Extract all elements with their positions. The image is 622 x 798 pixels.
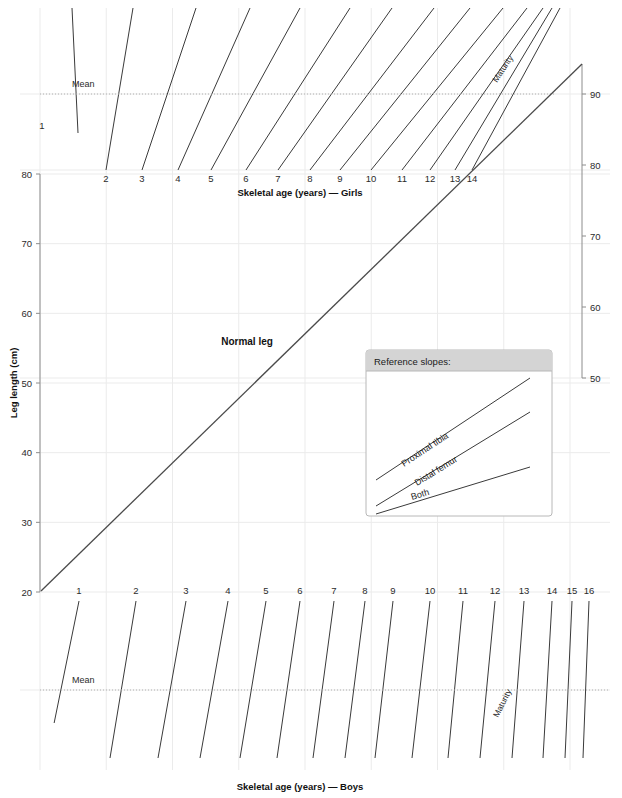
boys-age-label: 5 [263,585,268,596]
boys-age-label: 11 [458,585,468,596]
girls-age-label: 9 [337,173,342,184]
girls-mean-label: Mean [72,79,95,89]
boys-age-label: 13 [519,585,530,596]
right-axis-tick-label: 70 [590,231,601,242]
girls-age-label: 3 [139,173,144,184]
left-axis-tick-label: 30 [21,517,32,528]
girls-age-label: 5 [208,173,213,184]
girls-age-label: 4 [175,173,180,184]
right-axis-tick-label: 80 [590,160,601,171]
right-axis-tick-label: 60 [590,302,601,313]
left-axis-tick-label: 70 [21,238,32,249]
left-axis-tick-label: 80 [21,169,32,180]
girls-age-label: 1 [39,120,44,131]
girls-age-label: 7 [275,173,280,184]
girls-age-label: 8 [307,173,312,184]
boys-axis-title: Skeletal age (years) — Boys [237,781,364,792]
boys-age-label: 2 [133,585,138,596]
legend-title: Reference slopes: [374,356,451,367]
y-axis-title: Leg length (cm) [8,348,19,419]
boys-age-label: 15 [567,585,578,596]
chart-canvas: 1234567891011121314 Mean Maturity Skelet… [0,0,622,798]
boys-age-label: 12 [490,585,501,596]
boys-age-label: 9 [390,585,395,596]
left-axis-tick-label: 40 [21,447,32,458]
boys-mean-label: Mean [72,675,95,685]
legend-box [366,350,552,516]
left-axis-tick-label: 60 [21,308,32,319]
girls-age-label: 12 [425,173,436,184]
boys-age-label: 3 [183,585,188,596]
boys-age-label: 14 [547,585,558,596]
girls-age-label: 13 [450,173,461,184]
moseley-straight-line-chart: 1234567891011121314 Mean Maturity Skelet… [0,0,622,798]
boys-age-label: 6 [297,585,302,596]
normal-leg-label: Normal leg [221,336,273,347]
girls-age-label: 10 [366,173,377,184]
boys-age-label: 4 [225,585,230,596]
girls-age-label: 11 [397,173,407,184]
boys-age-label: 1 [76,585,81,596]
boys-age-label: 10 [425,585,436,596]
girls-age-label: 2 [103,173,108,184]
reference-slopes-legend: Reference slopes: Proximal tibia Distal … [366,350,552,516]
girls-axis-title: Skeletal age (years) — Girls [237,187,362,198]
right-axis-tick-label: 90 [590,89,601,100]
boys-age-label: 7 [331,585,336,596]
left-axis-tick-label: 20 [21,587,32,598]
girls-age-label: 6 [243,173,248,184]
boys-age-label: 16 [584,585,595,596]
right-axis-tick-label: 50 [590,373,601,384]
left-axis-tick-label: 50 [21,378,32,389]
boys-age-label: 8 [362,585,367,596]
